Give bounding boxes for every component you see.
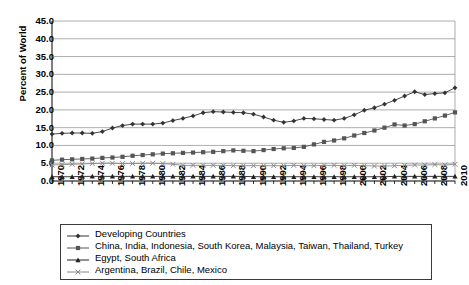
data-point-marker [76,234,81,239]
data-point-marker [352,133,356,137]
data-point-marker [332,138,336,142]
data-point-marker [241,110,246,115]
data-point-marker [76,246,80,250]
data-point-marker [60,158,64,162]
data-point-marker [171,151,175,155]
data-point-marker [140,122,145,127]
data-point-marker [120,123,125,128]
data-point-marker [402,94,407,99]
data-point-marker [120,155,124,159]
data-point-marker [362,108,367,113]
data-point-marker [443,90,448,95]
data-point-marker [90,157,94,161]
data-point-marker [251,112,256,117]
data-point-marker [50,158,54,162]
data-point-marker [342,116,347,121]
data-point-marker [422,92,427,97]
legend-marker-triangle-icon [65,252,91,264]
data-point-marker [302,145,306,149]
data-point-marker [272,147,276,151]
data-point-marker [282,146,286,150]
data-point-marker [231,110,236,115]
data-point-marker [382,102,387,107]
data-point-marker [151,152,155,156]
data-point-marker [241,149,245,153]
series-line [50,110,457,162]
series-line [50,161,458,169]
data-point-marker [443,113,447,117]
legend-item-label: Argentina, Brazil, Chile, Mexico [91,264,227,276]
data-point-marker [372,128,376,132]
data-point-marker [191,150,195,154]
legend-marker-square-icon [65,240,91,252]
data-point-marker [261,148,265,152]
data-point-marker [291,119,296,124]
data-point-marker [453,85,458,90]
data-point-marker [171,118,176,123]
data-point-marker [50,132,55,137]
data-point-marker [191,114,196,119]
chart-legend: Developing Countries China, India, Indon… [60,224,432,280]
data-point-marker [231,148,235,152]
data-point-marker [413,122,417,126]
data-point-marker [100,156,104,160]
data-point-marker [110,155,114,159]
series-line [49,174,457,179]
data-point-marker [150,122,155,127]
data-point-marker [160,121,165,126]
data-point-marker [70,131,75,136]
data-point-marker [312,142,316,146]
data-point-marker [392,98,397,103]
data-point-marker [130,122,135,127]
legend-item-label: Developing Countries [91,228,186,240]
data-point-marker [251,149,255,153]
legend-item[interactable]: Argentina, Brazil, Chile, Mexico [65,264,427,276]
data-point-marker [90,131,95,136]
data-point-marker [100,129,105,134]
legend-marker-x-icon [65,264,91,276]
data-point-marker [201,150,205,154]
legend-item-label: China, India, Indonesia, South Korea, Ma… [91,240,403,252]
legend-item[interactable]: Developing Countries [65,228,427,240]
legend-item[interactable]: Egypt, South Africa [65,252,427,264]
legend-item-label: Egypt, South Africa [91,252,176,264]
data-point-marker [161,152,165,156]
series-line [50,85,458,136]
data-point-marker [131,154,135,158]
data-point-marker [261,115,266,120]
data-point-marker [322,140,326,144]
data-point-marker [352,112,357,117]
data-point-marker [332,118,337,123]
data-point-marker [80,131,85,136]
data-point-marker [342,136,346,140]
data-point-marker [141,153,145,157]
data-point-marker [271,118,276,123]
data-point-marker [423,119,427,123]
legend-item[interactable]: China, India, Indonesia, South Korea, Ma… [65,240,427,252]
data-point-marker [221,110,226,115]
data-point-marker [301,116,306,121]
data-point-marker [181,151,185,155]
data-point-marker [281,120,286,125]
data-point-marker [70,157,74,161]
data-point-marker [382,126,386,130]
data-point-marker [372,105,377,110]
data-point-marker [403,123,407,127]
data-point-marker [80,157,84,161]
data-point-marker [322,117,327,122]
legend-marker-diamond-icon [65,228,91,240]
data-point-marker [453,110,457,114]
data-point-marker [110,126,115,131]
data-point-marker [181,116,186,121]
data-point-marker [312,116,317,121]
data-point-marker [392,122,396,126]
data-point-marker [211,150,215,154]
data-point-marker [412,89,417,94]
data-point-marker [60,131,65,136]
data-point-marker [362,131,366,135]
data-point-marker [292,146,296,150]
data-point-marker [433,116,437,120]
data-point-marker [221,149,225,153]
data-point-marker [201,110,206,115]
